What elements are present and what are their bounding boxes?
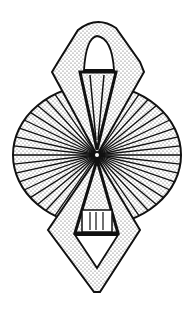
central-node [94,152,100,158]
specimen-illustration [0,0,183,320]
